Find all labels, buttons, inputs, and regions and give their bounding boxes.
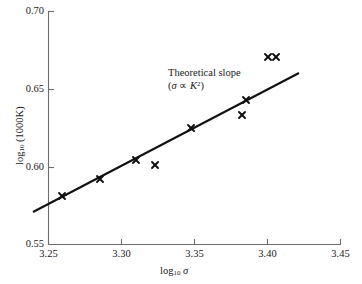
x-tick-label-330: 3.30 bbox=[99, 248, 144, 259]
data-point bbox=[239, 112, 245, 118]
x-tick-label-345: 3.45 bbox=[318, 248, 362, 259]
scatter-plot-figure: 0.70 0.65 0.60 0.55 3.25 3.30 3.35 3.40 … bbox=[0, 0, 362, 284]
x-tick-label-340: 3.40 bbox=[245, 248, 290, 259]
y-tick-label-070: 0.70 bbox=[12, 5, 44, 16]
annotation-line-1: Theoretical slope bbox=[168, 66, 241, 79]
theoretical-slope-line bbox=[33, 73, 299, 212]
x-tick-label-325: 3.25 bbox=[26, 248, 71, 259]
annotation-line-2: (σ ∝ K2) bbox=[168, 79, 241, 92]
x-axis-ticks bbox=[49, 239, 341, 245]
x-axis-label: log10 σ bbox=[160, 265, 188, 277]
x-tick-label-335: 3.35 bbox=[172, 248, 217, 259]
x-axis-label-sigma: σ bbox=[180, 265, 188, 276]
y-axis-label-rest: (1000K) bbox=[14, 106, 25, 144]
data-point bbox=[265, 54, 271, 60]
data-point bbox=[273, 54, 279, 60]
annotation-k: K bbox=[190, 80, 197, 91]
data-point bbox=[152, 162, 158, 168]
y-axis-label-log: log bbox=[14, 152, 25, 165]
y-axis-ticks bbox=[49, 12, 55, 245]
y-axis-label: log10 (1000K) bbox=[14, 106, 26, 165]
annotation-paren-close: ) bbox=[200, 80, 204, 91]
y-axis-label-subscript: 10 bbox=[18, 145, 26, 152]
theoretical-slope-annotation: Theoretical slope (σ ∝ K2) bbox=[168, 66, 241, 92]
plot-canvas bbox=[0, 0, 362, 284]
annotation-proportional-sign: ∝ bbox=[177, 80, 190, 91]
y-tick-label-065: 0.65 bbox=[12, 83, 44, 94]
x-axis-label-log: log bbox=[160, 265, 173, 276]
